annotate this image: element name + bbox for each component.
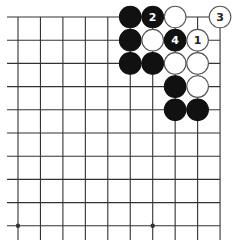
white-stone: 1 (187, 29, 209, 51)
black-stone (119, 6, 141, 28)
black-stone (119, 29, 141, 51)
move-number-label: 1 (194, 34, 202, 47)
board-grid (7, 17, 220, 240)
white-stone: 3 (209, 6, 231, 28)
black-stone (164, 76, 186, 98)
white-stone (164, 6, 186, 28)
black-stone (142, 53, 164, 75)
white-stone (164, 53, 186, 75)
black-stone: 2 (142, 6, 164, 28)
star-point (151, 224, 155, 228)
go-board-diagram: 2341 (0, 0, 237, 240)
white-stone (187, 53, 209, 75)
move-number-label: 4 (171, 34, 179, 47)
black-stone: 4 (164, 29, 186, 51)
move-number-label: 2 (149, 11, 157, 24)
white-stone (187, 76, 209, 98)
move-number-label: 3 (216, 11, 224, 24)
black-stone (119, 53, 141, 75)
black-stone (187, 99, 209, 121)
black-stone (164, 99, 186, 121)
star-point (16, 224, 20, 228)
white-stone (142, 29, 164, 51)
